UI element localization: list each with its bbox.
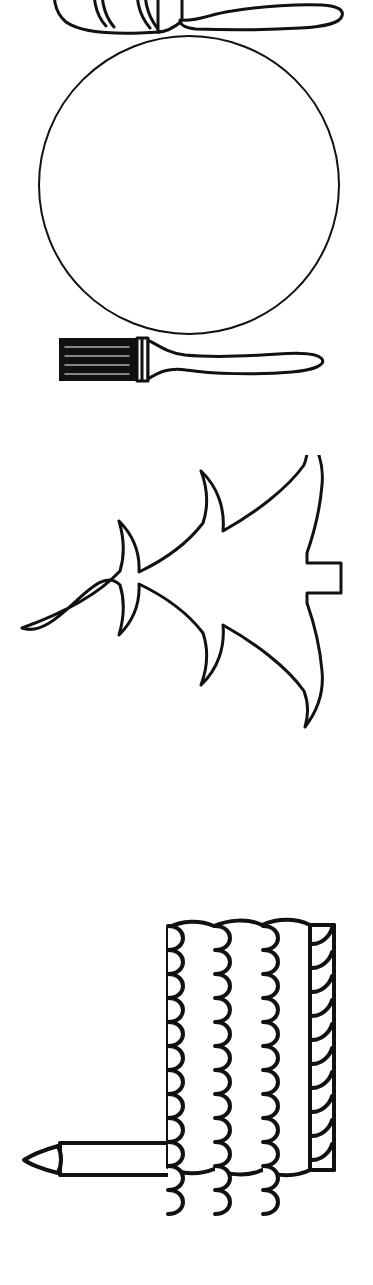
figure-paint-brush [0,330,373,395]
figure-birthday-cake [0,870,373,1270]
candle-body [60,1143,175,1175]
brush-bristle-stripe-4 [63,372,131,376]
brush-bristle-stripe-1 [63,345,131,349]
stencil-sheet [0,0,373,1285]
brush-main-group [59,338,323,381]
figure-christmas-tree [0,455,373,805]
brush-handle [148,340,323,379]
figure-circle-outline [0,28,373,343]
cake-group [24,920,334,1214]
brush-bristle-stripe-3 [63,363,131,367]
brush-bristle-stripe-2 [63,354,131,358]
brush-top-handle [180,5,342,30]
cake-rope-band [310,925,334,1170]
candle-flame-icon [24,1146,61,1173]
circle-outline-shape [39,36,339,334]
tree-outline [22,455,341,727]
